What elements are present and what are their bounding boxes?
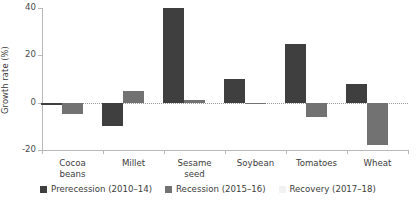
- x-axis-tick: [347, 150, 348, 154]
- bar: [184, 100, 205, 102]
- y-axis-line: [42, 8, 43, 150]
- legend-label: Recession (2015–16): [176, 184, 265, 194]
- bar: [224, 79, 245, 103]
- y-tick-mark: [38, 8, 42, 9]
- x-axis-tick: [286, 150, 287, 154]
- x-axis-tick: [42, 150, 43, 154]
- bar: [306, 103, 327, 117]
- chart-legend: Prerecession (2010–14)Recession (2015–16…: [0, 181, 416, 197]
- bar: [346, 84, 367, 103]
- growth-rate-bar-chart: Growth rate (%) 40200-20 Cocoa beansMill…: [0, 0, 416, 201]
- y-tick-label: 20: [8, 50, 36, 59]
- category-label: Soybean: [225, 158, 286, 169]
- category-label: Cocoa beans: [42, 158, 103, 180]
- x-axis-tick: [103, 150, 104, 154]
- category-label: Sesame seed: [164, 158, 225, 180]
- y-tick-label: 40: [8, 3, 36, 12]
- x-axis-tick: [164, 150, 165, 154]
- bar: [102, 103, 123, 127]
- zero-reference-line: [42, 103, 408, 104]
- bar: [62, 103, 83, 115]
- legend-swatch-icon: [279, 186, 286, 193]
- legend-item[interactable]: Recovery (2017–18): [279, 184, 376, 194]
- x-axis-tick: [225, 150, 226, 154]
- y-tick-label: 0: [8, 98, 36, 107]
- y-tick-mark: [38, 55, 42, 56]
- y-tick-label: -20: [8, 145, 36, 154]
- legend-swatch-icon: [165, 186, 172, 193]
- legend-label: Prerecession (2010–14): [51, 184, 152, 194]
- y-axis-title: Growth rate (%): [0, 10, 14, 150]
- legend-label: Recovery (2017–18): [290, 184, 376, 194]
- bar: [285, 44, 306, 103]
- legend-item[interactable]: Recession (2015–16): [165, 184, 265, 194]
- bar: [41, 103, 62, 105]
- category-label: Wheat: [347, 158, 408, 169]
- x-axis-tick: [408, 150, 409, 154]
- bar: [123, 91, 144, 103]
- bar: [245, 103, 266, 104]
- plot-area: 40200-20 Cocoa beansMilletSesame seedSoy…: [42, 8, 408, 150]
- category-label: Tomatoes: [286, 158, 347, 169]
- category-label: Millet: [103, 158, 164, 169]
- legend-item[interactable]: Prerecession (2010–14): [40, 184, 152, 194]
- bar: [367, 103, 388, 146]
- bar: [163, 8, 184, 103]
- legend-swatch-icon: [40, 186, 47, 193]
